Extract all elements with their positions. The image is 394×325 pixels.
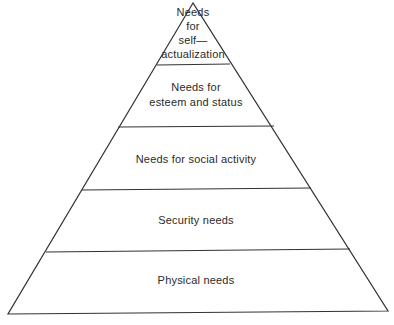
level-physical-label: Physical needs [96, 273, 296, 288]
level-esteem-label: Needs for esteem and status [126, 80, 266, 110]
divider-3 [82, 188, 311, 190]
divider-4 [46, 249, 350, 252]
level-security-label: Security needs [96, 213, 296, 228]
divider-1 [157, 64, 230, 65]
level-social-label: Needs for social activity [96, 152, 296, 167]
level-self-actualization-label: Needs for self— actualization [153, 5, 233, 61]
divider-2 [118, 126, 274, 127]
